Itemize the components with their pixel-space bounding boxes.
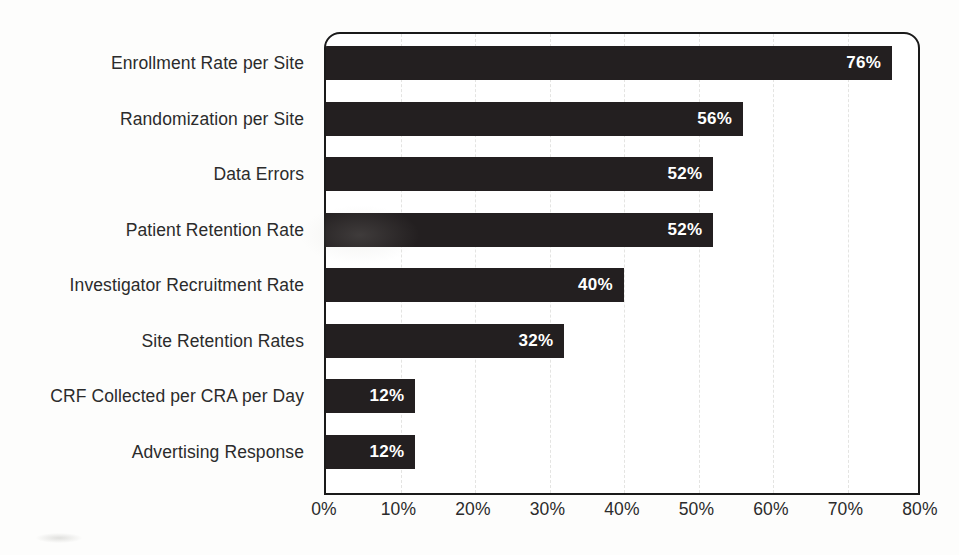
bar-row: 52% [326,213,920,247]
bar-value-label: 40% [578,275,624,295]
category-label: Randomization per Site [0,109,304,129]
x-tick-label: 0% [311,499,337,520]
x-tick-label: 50% [679,499,715,520]
bar-value-label: 52% [667,164,713,184]
bar-row: 56% [326,102,920,136]
bar-row: 32% [326,324,920,358]
bar[interactable]: 40% [326,268,624,302]
bar[interactable]: 12% [326,379,415,413]
bar-value-label: 12% [369,386,415,406]
x-tick-label: 10% [381,499,417,520]
bar-value-label: 52% [667,220,713,240]
bar-row: 40% [326,268,920,302]
bar-row: 76% [326,46,920,80]
x-tick-label: 80% [902,499,938,520]
category-label: Enrollment Rate per Site [0,53,304,73]
bar-row: 12% [326,435,920,469]
bar[interactable]: 52% [326,213,713,247]
category-label: Site Retention Rates [0,331,304,351]
bar[interactable]: 56% [326,102,743,136]
plot-area: 76% 56% 52% 52% 40% [324,32,920,495]
x-axis: 0%10%20%30%40%50%60%70%80% [324,495,920,535]
scan-artifact [36,533,82,543]
x-tick-label: 40% [604,499,640,520]
bar-row: 12% [326,379,920,413]
bar[interactable]: 32% [326,324,564,358]
bar[interactable]: 76% [326,46,892,80]
category-label: Investigator Recruitment Rate [0,275,304,295]
bar-row: 52% [326,157,920,191]
category-label: CRF Collected per CRA per Day [0,386,304,406]
bar-value-label: 76% [846,53,892,73]
x-tick-label: 70% [828,499,864,520]
x-tick-label: 60% [753,499,789,520]
bar-value-label: 32% [518,331,564,351]
category-label: Patient Retention Rate [0,220,304,240]
bar-value-label: 12% [369,442,415,462]
category-label: Advertising Response [0,442,304,462]
bar-value-label: 56% [697,109,743,129]
bar[interactable]: 12% [326,435,415,469]
category-label: Data Errors [0,164,304,184]
bar[interactable]: 52% [326,157,713,191]
bar-chart: Enrollment Rate per Site Randomization p… [0,0,959,555]
bar-series: 76% 56% 52% 52% 40% [326,34,918,493]
x-tick-label: 30% [530,499,566,520]
category-axis-labels: Enrollment Rate per Site Randomization p… [0,42,312,495]
x-tick-label: 20% [455,499,491,520]
